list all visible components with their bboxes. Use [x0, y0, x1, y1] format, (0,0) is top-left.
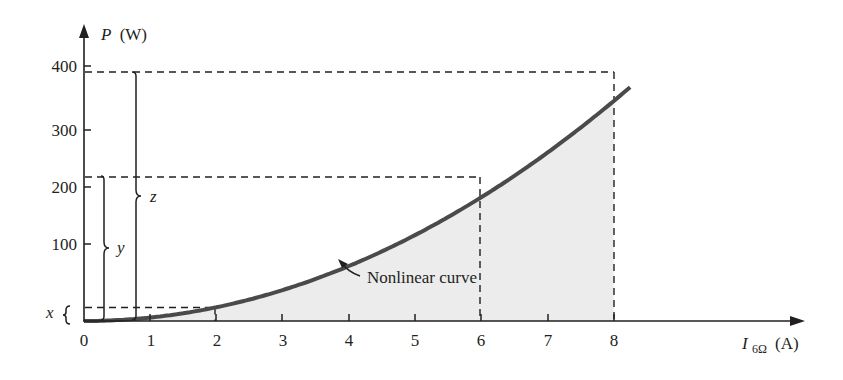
shaded-area — [84, 101, 614, 321]
svg-text:0: 0 — [80, 331, 89, 350]
x-axis-label: I 6Ω (A) — [741, 334, 799, 357]
brace-z-icon — [132, 72, 141, 320]
braces — [63, 72, 141, 324]
x-axis-arrow-icon — [790, 316, 805, 326]
svg-text:1: 1 — [147, 331, 156, 350]
svg-text:100: 100 — [52, 235, 78, 254]
y-axis-label: P (W) — [100, 25, 147, 44]
brace-y-icon — [101, 176, 109, 320]
brace-z-label: z — [149, 187, 157, 206]
svg-text:3: 3 — [279, 331, 288, 350]
brace-x-icon — [63, 306, 70, 324]
svg-text:7: 7 — [544, 331, 553, 350]
curve-annotation-label: Nonlinear curve — [367, 268, 477, 287]
svg-text:8: 8 — [610, 331, 619, 350]
svg-text:2: 2 — [213, 331, 222, 350]
svg-text:300: 300 — [52, 121, 78, 140]
brace-y-label: y — [115, 238, 125, 257]
power-vs-current-chart: 0 1 2 3 4 5 6 7 8 100 200 300 400 P (W) … — [0, 0, 843, 380]
brace-x-label: x — [45, 303, 54, 322]
y-tick-labels: 100 200 300 400 — [52, 57, 78, 254]
svg-text:4: 4 — [345, 331, 354, 350]
svg-text:200: 200 — [52, 178, 78, 197]
svg-text:6: 6 — [477, 331, 486, 350]
svg-text:400: 400 — [52, 57, 78, 76]
x-tick-labels: 0 1 2 3 4 5 6 7 8 — [80, 331, 619, 350]
svg-text:5: 5 — [411, 331, 420, 350]
y-axis-arrow-icon — [79, 24, 89, 38]
